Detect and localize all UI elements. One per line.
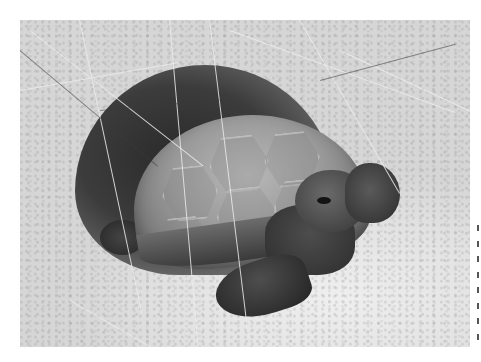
edge-mark xyxy=(477,256,479,262)
edge-mark xyxy=(477,272,479,278)
edge-mark xyxy=(477,303,479,309)
edge-mark xyxy=(477,318,479,324)
tortoise-snout xyxy=(345,163,400,223)
shell-scute xyxy=(159,163,220,223)
tortoise-photo xyxy=(20,20,470,347)
edge-mark xyxy=(477,287,479,293)
clipped-edge-marks xyxy=(477,225,481,340)
edge-mark xyxy=(477,225,479,231)
tortoise-eye xyxy=(317,197,331,204)
edge-mark xyxy=(477,334,479,340)
shell-scute xyxy=(206,133,272,195)
edge-mark xyxy=(477,241,479,247)
